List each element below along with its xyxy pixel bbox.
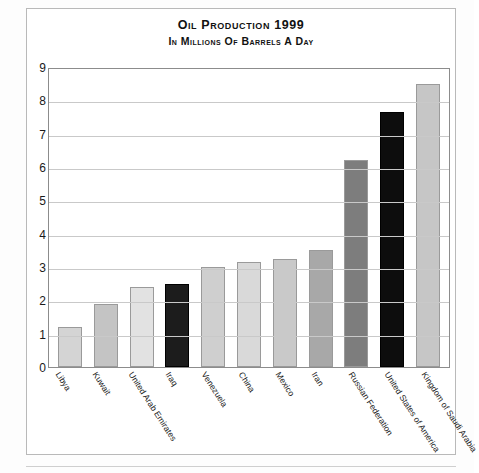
bar-iraq bbox=[165, 284, 189, 367]
y-tick-label-9: 9 bbox=[24, 62, 46, 74]
gridline-4 bbox=[49, 236, 449, 237]
gridline-7 bbox=[49, 136, 449, 137]
x-label-kuwait: Kuwait bbox=[90, 370, 112, 397]
y-tick-label-8: 8 bbox=[24, 95, 46, 107]
x-axis-labels: LibyaKuwaitUnited Arab EmiratesIraqVenez… bbox=[48, 370, 450, 465]
title-block: Oil Production 1999 in Millions of Barre… bbox=[40, 18, 442, 48]
bar-kingdom-of-saudi-arabia bbox=[416, 84, 440, 367]
x-label-venezuela: Venezuela bbox=[200, 370, 230, 409]
bar-mexico bbox=[273, 259, 297, 367]
gridline-6 bbox=[49, 169, 449, 170]
bar-series bbox=[49, 69, 449, 367]
y-tick-label-0: 0 bbox=[24, 362, 46, 374]
x-label-mexico: Mexico bbox=[273, 370, 296, 398]
bar-iran bbox=[309, 250, 333, 367]
chart-title: Oil Production 1999 bbox=[40, 18, 442, 33]
y-tick-label-4: 4 bbox=[24, 229, 46, 241]
y-tick-label-1: 1 bbox=[24, 329, 46, 341]
y-axis: 0123456789 bbox=[22, 58, 46, 378]
bar-united-states-of-america bbox=[380, 112, 404, 367]
y-tick-label-5: 5 bbox=[24, 195, 46, 207]
bar-china bbox=[237, 262, 261, 367]
bar-united-arab-emirates bbox=[130, 287, 154, 367]
page-bottom-divider bbox=[26, 466, 456, 473]
gridline-1 bbox=[49, 336, 449, 337]
bar-libya bbox=[58, 327, 82, 367]
y-tick-label-6: 6 bbox=[24, 162, 46, 174]
y-tick-label-7: 7 bbox=[24, 129, 46, 141]
gridline-2 bbox=[49, 302, 449, 303]
x-label-libya: Libya bbox=[54, 370, 73, 392]
x-label-iran: Iran bbox=[310, 370, 326, 388]
gridline-5 bbox=[49, 202, 449, 203]
chart-subtitle: in Millions of Barrels a Day bbox=[40, 34, 442, 48]
x-label-iraq: Iraq bbox=[164, 370, 180, 388]
gridline-3 bbox=[49, 269, 449, 270]
x-label-china: China bbox=[237, 370, 257, 394]
y-tick-label-2: 2 bbox=[24, 295, 46, 307]
plot-area bbox=[48, 68, 450, 368]
y-tick-label-3: 3 bbox=[24, 262, 46, 274]
bar-venezuela bbox=[201, 267, 225, 367]
gridline-8 bbox=[49, 102, 449, 103]
